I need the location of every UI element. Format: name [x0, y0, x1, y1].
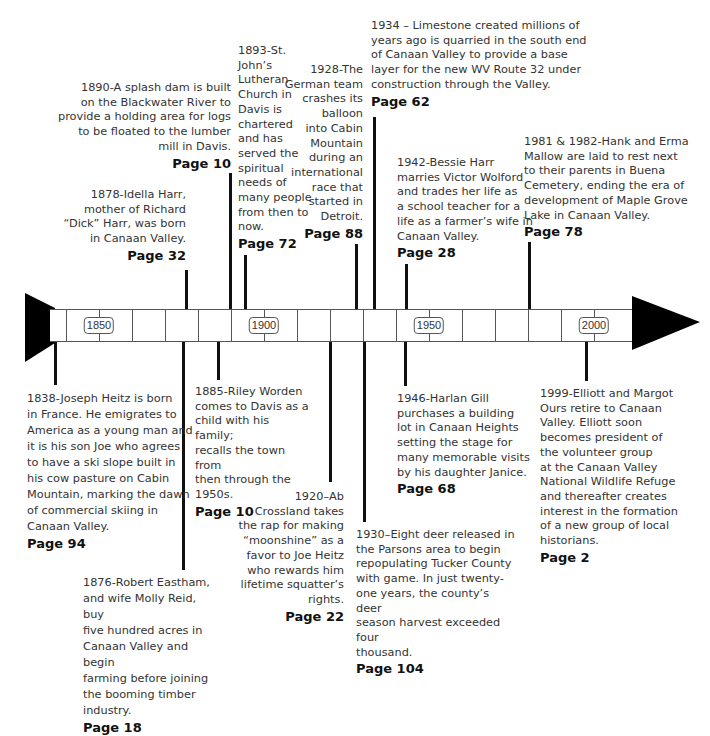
event-page: Page 62: [371, 94, 591, 110]
event-1920: 1920–Ab Crossland takes the rap for maki…: [234, 490, 344, 625]
event-1981-1982: 1981 & 1982-Hank and Erma Mallow are lai…: [524, 135, 694, 240]
connector-1838: [54, 342, 57, 385]
event-text: 1942-Bessie Harr marries Victor Wolford …: [397, 156, 537, 244]
decade-divider: [396, 309, 397, 342]
decade-divider: [198, 309, 199, 342]
event-text: 1930–Eight deer released in the Parsons …: [356, 528, 516, 660]
decade-divider: [363, 309, 364, 342]
event-text: 1878-Idella Harr, mother of Richard “Dic…: [16, 188, 186, 247]
event-text: 1946-Harlan Gill purchases a building lo…: [397, 392, 537, 480]
connector-1893: [244, 255, 247, 309]
event-text: 1981 & 1982-Hank and Erma Mallow are lai…: [524, 135, 694, 223]
event-1942: 1942-Bessie Harr marries Victor Wolford …: [397, 156, 537, 261]
event-1934: 1934 – Limestone created millions of yea…: [371, 19, 591, 110]
event-text: 1876-Robert Eastham, and wife Molly Reid…: [83, 575, 218, 719]
event-page: Page 94: [27, 536, 202, 552]
event-text: 1885-Riley Worden comes to Davis as a ch…: [195, 385, 310, 503]
connector-1930: [363, 342, 366, 522]
decade-divider: [462, 309, 463, 342]
decade-divider: [330, 309, 331, 342]
connector-1934: [373, 117, 376, 309]
event-page: Page 28: [397, 245, 537, 261]
timeline-bar: [50, 309, 632, 342]
event-page: Page 10: [31, 156, 231, 172]
event-text: 1890-A splash dam is built on the Blackw…: [31, 81, 231, 155]
right-arrowhead-icon: [632, 296, 700, 350]
event-1946: 1946-Harlan Gill purchases a building lo…: [397, 392, 537, 497]
event-text: 1920–Ab Crossland takes the rap for maki…: [234, 490, 344, 608]
event-1876: 1876-Robert Eastham, and wife Molly Reid…: [83, 575, 218, 736]
decade-divider: [66, 309, 67, 342]
event-page: Page 32: [16, 248, 186, 264]
event-text: 1934 – Limestone created millions of yea…: [371, 19, 591, 93]
event-1838: 1838-Joseph Heitz is born in France. He …: [27, 391, 202, 552]
event-1890: 1890-A splash dam is built on the Blackw…: [31, 81, 231, 172]
connector-1946: [404, 342, 407, 386]
connector-1999: [585, 342, 588, 381]
connector-1885: [217, 342, 220, 380]
event-page: Page 22: [234, 609, 344, 625]
year-label-2000: 2000: [579, 317, 609, 334]
connector-1890: [229, 173, 232, 309]
event-page: Page 88: [283, 226, 363, 242]
event-1930: 1930–Eight deer released in the Parsons …: [356, 528, 516, 677]
event-page: Page 104: [356, 661, 516, 677]
year-label-1950: 1950: [414, 317, 444, 334]
event-page: Page 78: [524, 224, 694, 240]
decade-divider: [132, 309, 133, 342]
event-text: 1928-The German team crashes its balloon…: [283, 63, 363, 225]
decade-divider: [528, 309, 529, 342]
event-text: 1838-Joseph Heitz is born in France. He …: [27, 391, 202, 535]
decade-divider: [561, 309, 562, 342]
connector-1878: [185, 270, 188, 309]
decade-divider: [231, 309, 232, 342]
event-1999: 1999-Elliott and Margot Ours retire to C…: [540, 387, 705, 566]
event-page: Page 68: [397, 481, 537, 497]
decade-divider: [165, 309, 166, 342]
event-text: 1999-Elliott and Margot Ours retire to C…: [540, 387, 705, 549]
event-1878: 1878-Idella Harr, mother of Richard “Dic…: [16, 188, 186, 264]
decade-divider: [495, 309, 496, 342]
connector-1920: [329, 342, 332, 482]
connector-1928: [355, 244, 358, 309]
event-page: Page 2: [540, 550, 705, 566]
event-1928: 1928-The German team crashes its balloon…: [283, 63, 363, 242]
event-page: Page 18: [83, 720, 218, 736]
year-label-1900: 1900: [249, 317, 279, 334]
connector-1942: [405, 264, 408, 309]
decade-divider: [297, 309, 298, 342]
year-label-1850: 1850: [84, 317, 114, 334]
